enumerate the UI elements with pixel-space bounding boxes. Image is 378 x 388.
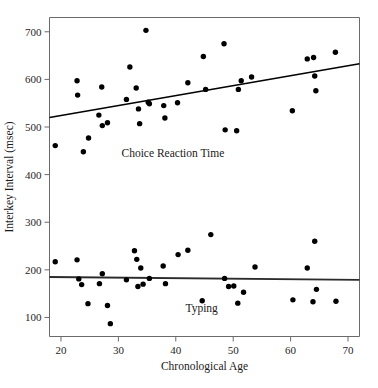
data-point	[96, 112, 101, 117]
data-point	[147, 276, 152, 281]
data-point	[314, 287, 319, 292]
data-point	[105, 120, 110, 125]
data-point	[134, 257, 139, 262]
data-point	[124, 97, 129, 102]
data-point	[311, 55, 316, 60]
data-point	[226, 284, 231, 289]
y-tick-label: 100	[25, 311, 42, 323]
data-point	[234, 128, 239, 133]
data-point	[222, 276, 227, 281]
scatter-plot-figure: 100200300400500600700203040506070Chronol…	[0, 0, 378, 388]
data-point	[108, 321, 113, 326]
data-point	[203, 87, 208, 92]
data-point	[147, 101, 152, 106]
data-point	[124, 277, 129, 282]
y-tick-label: 600	[25, 73, 42, 85]
x-tick-label: 30	[113, 344, 125, 356]
data-point	[333, 50, 338, 55]
data-point	[312, 73, 317, 78]
data-point	[241, 290, 246, 295]
data-point	[99, 84, 104, 89]
data-point	[127, 64, 132, 69]
data-point	[162, 115, 167, 120]
data-point	[185, 80, 190, 85]
data-point	[185, 248, 190, 253]
data-point	[76, 276, 81, 281]
data-point	[305, 56, 310, 61]
data-point	[135, 284, 140, 289]
x-tick-label: 70	[343, 344, 355, 356]
data-point	[236, 87, 241, 92]
y-axis-title: Interkey Interval (msec)	[3, 121, 16, 232]
plot-canvas: 100200300400500600700203040506070Chronol…	[0, 0, 378, 388]
data-point	[143, 28, 148, 33]
data-point	[100, 271, 105, 276]
data-point	[310, 299, 315, 304]
data-point	[136, 106, 141, 111]
data-point	[249, 74, 254, 79]
data-point	[137, 121, 142, 126]
data-point	[239, 78, 244, 83]
x-tick-label: 60	[285, 344, 297, 356]
series-label-choice-reaction-time: Choice Reaction Time	[121, 147, 224, 159]
regression-line-typing	[50, 277, 360, 280]
data-point	[161, 103, 166, 108]
y-tick-label: 200	[25, 264, 42, 276]
y-tick-label: 700	[25, 26, 42, 38]
data-point	[100, 123, 105, 128]
data-point	[86, 135, 91, 140]
data-point	[290, 108, 295, 113]
data-point	[97, 281, 102, 286]
data-point	[74, 257, 79, 262]
x-tick-label: 40	[170, 344, 182, 356]
data-point	[290, 297, 295, 302]
x-axis-title: Chronological Age	[161, 360, 248, 373]
data-point	[208, 232, 213, 237]
data-point	[305, 265, 310, 270]
data-point	[163, 281, 168, 286]
data-point	[133, 85, 138, 90]
data-point	[312, 239, 317, 244]
x-tick-label: 50	[228, 344, 240, 356]
data-point	[221, 41, 226, 46]
data-point	[313, 88, 318, 93]
data-point	[235, 300, 240, 305]
data-point	[201, 54, 206, 59]
data-point	[231, 283, 236, 288]
data-point	[222, 127, 227, 132]
data-point	[81, 149, 86, 154]
data-point	[252, 264, 257, 269]
plot-frame	[50, 18, 360, 337]
y-tick-label: 300	[25, 216, 42, 228]
data-point	[138, 265, 143, 270]
data-point	[140, 281, 145, 286]
data-point	[333, 299, 338, 304]
data-point	[175, 100, 180, 105]
data-point	[79, 282, 84, 287]
data-point	[175, 252, 180, 257]
data-point	[105, 303, 110, 308]
data-point	[53, 143, 58, 148]
data-point	[74, 78, 79, 83]
data-point	[160, 263, 165, 268]
x-tick-label: 20	[55, 344, 67, 356]
series-label-typing: Typing	[185, 302, 218, 315]
data-point	[85, 301, 90, 306]
data-point	[75, 92, 80, 97]
data-point	[53, 259, 58, 264]
data-point	[132, 248, 137, 253]
y-tick-label: 500	[25, 121, 42, 133]
y-tick-label: 400	[25, 169, 42, 181]
